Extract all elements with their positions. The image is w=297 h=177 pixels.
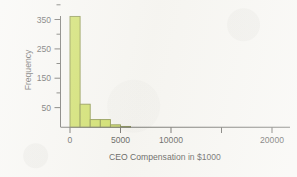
- y-axis: 350 250 150 50 Frequency: [23, 5, 61, 127]
- chart-canvas: 350 250 150 50 Frequency 0 5000: [0, 0, 297, 177]
- x-tick-label-10000: 10000: [159, 135, 183, 145]
- bar-bin-0-1000: [70, 16, 80, 127]
- y-tick-label-250: 250: [37, 44, 52, 54]
- x-tick-label-5000: 5000: [111, 135, 130, 145]
- y-axis-title: Frequency: [23, 49, 33, 90]
- x-axis: 0 5000 10000 20000 CEO Compensation in $…: [61, 127, 291, 162]
- x-tick-label-20000: 20000: [260, 135, 284, 145]
- histogram-figure: 350 250 150 50 Frequency 0 5000: [0, 0, 297, 177]
- bar-bin-3000-4000: [100, 120, 110, 128]
- histogram-bars: [70, 16, 131, 127]
- bar-bin-1000-2000: [80, 104, 90, 127]
- x-axis-title: CEO Compensation in $1000: [109, 152, 221, 162]
- x-tick-label-0: 0: [68, 135, 73, 145]
- bar-bin-2000-3000: [90, 120, 100, 128]
- y-tick-label-350: 350: [37, 15, 52, 25]
- y-tick-label-50: 50: [41, 103, 51, 113]
- y-tick-label-150: 150: [37, 73, 52, 83]
